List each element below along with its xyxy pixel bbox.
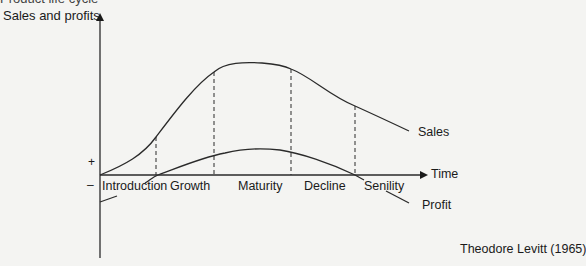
profit-curve [100, 196, 117, 202]
y-axis-label: Sales and profits [3, 9, 100, 22]
attribution: Theodore Levitt (1965) [460, 243, 586, 256]
minus-sign: – [87, 179, 94, 191]
stage-maturity: Maturity [238, 180, 282, 193]
x-axis-label: Time [431, 168, 458, 181]
stage-senility: Senility [364, 180, 404, 193]
plus-sign: + [88, 156, 95, 168]
sales-curve [100, 63, 409, 175]
stage-growth: Growth [170, 180, 210, 193]
profit-label: Profit [422, 199, 451, 212]
profit-curve [145, 149, 364, 183]
stage-dividers [156, 69, 355, 175]
stage-introduction: Introduction [102, 180, 167, 193]
sales-label: Sales [418, 126, 449, 139]
stage-decline: Decline [304, 180, 346, 193]
